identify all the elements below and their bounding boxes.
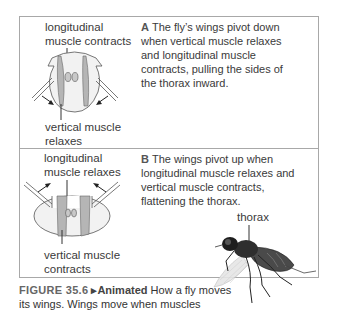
panel-b-bottom-label: vertical muscle contracts	[44, 248, 120, 276]
panel-a-bottom-label-line1: vertical muscle	[45, 120, 121, 134]
figure-caption: FIGURE 35.6 ▸Animated How a fly moves it…	[19, 283, 239, 311]
panel-a-thorax-diagram	[30, 48, 120, 118]
panel-a-top-label: longitudinal muscle contracts	[45, 20, 131, 48]
panel-divider	[20, 148, 318, 149]
panel-b-bottom-label-line2: contracts	[44, 262, 120, 276]
panel-b-top-label-line2: muscle relaxes	[44, 165, 121, 179]
fly-thorax-label: thorax	[237, 211, 269, 223]
panel-b-top-label-line1: longitudinal	[44, 151, 121, 165]
panel-a-description: AThe fly’s wings pivot down when vertica…	[141, 20, 291, 90]
panel-a-letter: A	[141, 21, 149, 33]
panel-b-description: BThe wings pivot up when longitudinal mu…	[141, 152, 301, 208]
panel-a-description-text: The fly’s wings pivot down when vertical…	[141, 21, 283, 89]
panel-b-thorax-diagram	[22, 180, 122, 250]
panel-b-description-text: The wings pivot up when longitudinal mus…	[141, 153, 294, 207]
panel-a-top-label-line2: muscle contracts	[45, 34, 131, 48]
figure-number: FIGURE 35.6	[19, 284, 88, 296]
animated-link[interactable]: ▸Animated	[91, 284, 147, 296]
panel-a-top-label-line1: longitudinal	[45, 20, 131, 34]
panel-b-top-label: longitudinal muscle relaxes	[44, 151, 121, 179]
panel-a-bottom-label-line2: relaxes	[45, 134, 121, 148]
panel-a-bottom-label: vertical muscle relaxes	[45, 120, 121, 148]
panel-b-bottom-label-line1: vertical muscle	[44, 248, 120, 262]
panel-b-letter: B	[141, 153, 149, 165]
